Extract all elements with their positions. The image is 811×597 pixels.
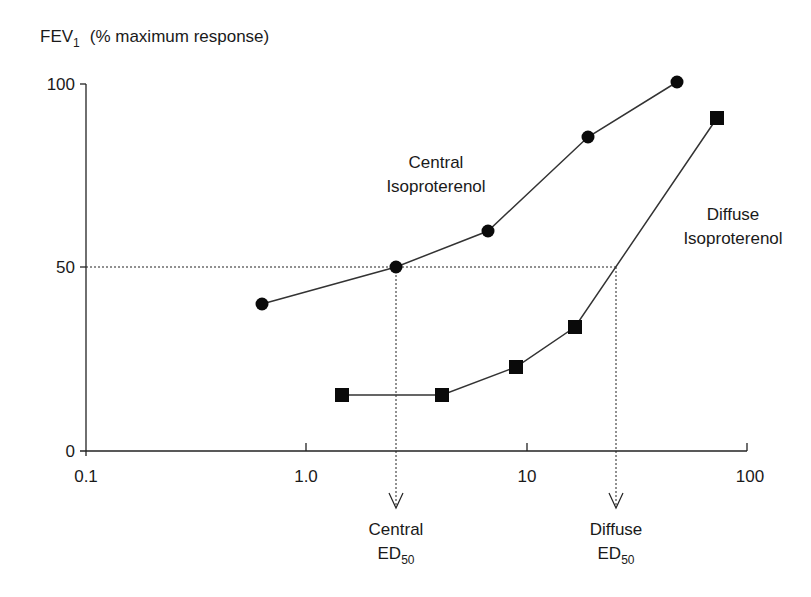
- diffuse-point: [710, 111, 724, 125]
- axes: [80, 84, 747, 456]
- diffuse-point: [335, 388, 349, 402]
- central-series-label: Central Isoproterenol: [386, 153, 485, 196]
- svg-text:ED50: ED50: [378, 544, 415, 567]
- ed50-reference-lines: [86, 267, 616, 506]
- central-point: [256, 298, 269, 311]
- x-tick-label-100: 100: [736, 467, 764, 486]
- diffuse-ed50-label: Diffuse ED50: [590, 520, 643, 567]
- svg-text:Diffuse: Diffuse: [707, 205, 760, 224]
- x-tick-label-10: 10: [518, 467, 537, 486]
- central-point: [582, 131, 595, 144]
- central-point: [390, 261, 403, 274]
- central-point: [671, 76, 684, 89]
- diffuse-line: [342, 118, 717, 395]
- svg-text:Diffuse: Diffuse: [590, 520, 643, 539]
- svg-text:ED50: ED50: [598, 544, 635, 567]
- y-tick-label-50: 50: [56, 258, 75, 277]
- svg-text:Isoproterenol: Isoproterenol: [386, 177, 485, 196]
- x-tick-label-0.1: 0.1: [74, 467, 98, 486]
- x-tick-label-1.0: 1.0: [294, 467, 318, 486]
- dose-response-chart: FEV1(% maximum response) 100 50 0 0.1 1.…: [0, 0, 811, 597]
- central-ed50-label: Central ED50: [369, 520, 424, 567]
- central-point: [482, 225, 495, 238]
- y-tick-label-100: 100: [47, 75, 75, 94]
- svg-text:Isoproterenol: Isoproterenol: [683, 229, 782, 248]
- y-tick-label-0: 0: [66, 442, 75, 461]
- diffuse-point: [435, 388, 449, 402]
- svg-text:Central: Central: [369, 520, 424, 539]
- y-axis-label: FEV1(% maximum response): [40, 27, 269, 50]
- diffuse-point: [568, 320, 582, 334]
- diffuse-series-label: Diffuse Isoproterenol: [683, 205, 782, 248]
- svg-text:Central: Central: [409, 153, 464, 172]
- series-diffuse-isoproterenol: [335, 111, 724, 402]
- diffuse-point: [509, 360, 523, 374]
